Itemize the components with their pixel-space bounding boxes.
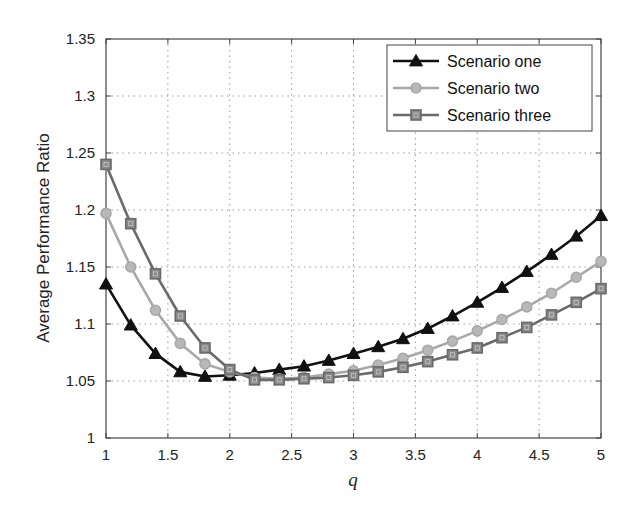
square-marker bbox=[423, 357, 433, 367]
x-tick-label: 1.5 bbox=[157, 446, 178, 463]
x-tick-label: 2 bbox=[226, 446, 234, 463]
square-marker bbox=[472, 343, 482, 353]
square-marker bbox=[126, 219, 136, 229]
y-tick-label: 1.35 bbox=[66, 30, 95, 47]
square-marker bbox=[250, 375, 260, 385]
square-marker bbox=[522, 322, 532, 332]
square-marker bbox=[373, 367, 383, 377]
x-tick-label: 3 bbox=[349, 446, 357, 463]
x-tick-labels: 11.522.533.544.55 bbox=[102, 446, 605, 463]
square-marker bbox=[411, 110, 421, 120]
square-marker bbox=[398, 362, 408, 372]
square-marker bbox=[175, 311, 185, 321]
x-tick-label: 5 bbox=[597, 446, 605, 463]
x-tick-label: 3.5 bbox=[405, 446, 426, 463]
circle-marker bbox=[448, 336, 458, 346]
square-marker bbox=[274, 375, 284, 385]
square-marker bbox=[200, 343, 210, 353]
circle-marker bbox=[472, 326, 482, 336]
square-marker bbox=[324, 373, 334, 383]
legend-label: Scenario three bbox=[447, 107, 551, 124]
circle-marker bbox=[522, 302, 532, 312]
circle-marker bbox=[596, 256, 606, 266]
y-axis-title: Average Performance Ratio bbox=[34, 133, 53, 342]
legend-label: Scenario one bbox=[447, 53, 541, 70]
circle-marker bbox=[101, 208, 111, 218]
circle-marker bbox=[151, 305, 161, 315]
square-marker bbox=[448, 350, 458, 360]
square-marker bbox=[225, 365, 235, 375]
square-marker bbox=[101, 159, 111, 169]
square-marker bbox=[349, 370, 359, 380]
y-tick-label: 1.2 bbox=[74, 201, 95, 218]
legend: Scenario oneScenario twoScenario three bbox=[387, 45, 592, 131]
square-marker bbox=[571, 297, 581, 307]
circle-marker bbox=[200, 359, 210, 369]
circle-marker bbox=[547, 288, 557, 298]
x-tick-label: 2.5 bbox=[281, 446, 302, 463]
y-tick-label: 1 bbox=[87, 429, 95, 446]
circle-marker bbox=[497, 314, 507, 324]
y-tick-label: 1.1 bbox=[74, 315, 95, 332]
x-tick-label: 4 bbox=[473, 446, 481, 463]
legend-label: Scenario two bbox=[447, 80, 540, 97]
x-axis-title: q bbox=[348, 469, 358, 490]
square-marker bbox=[151, 269, 161, 279]
circle-marker bbox=[571, 272, 581, 282]
square-marker bbox=[547, 310, 557, 320]
y-tick-label: 1.05 bbox=[66, 372, 95, 389]
x-tick-label: 1 bbox=[102, 446, 110, 463]
y-tick-label: 1.15 bbox=[66, 258, 95, 275]
y-tick-label: 1.25 bbox=[66, 144, 95, 161]
square-marker bbox=[596, 284, 606, 294]
line-chart: 11.522.533.544.55 11.051.11.151.21.251.3… bbox=[0, 0, 637, 522]
square-marker bbox=[497, 333, 507, 343]
circle-marker bbox=[423, 345, 433, 355]
x-tick-label: 4.5 bbox=[529, 446, 550, 463]
circle-marker bbox=[126, 262, 136, 272]
circle-marker bbox=[411, 83, 421, 93]
square-marker bbox=[299, 374, 309, 384]
circle-marker bbox=[175, 338, 185, 348]
y-tick-label: 1.3 bbox=[74, 87, 95, 104]
